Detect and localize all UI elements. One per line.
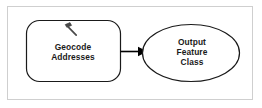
node-label-output-feature-class: Output Feature Class <box>146 37 238 67</box>
modelbuilder-diagram-screenshot: Geocode Addresses Output Feature Class <box>0 0 262 108</box>
node-label-geocode-addresses: Geocode Addresses <box>26 42 120 62</box>
